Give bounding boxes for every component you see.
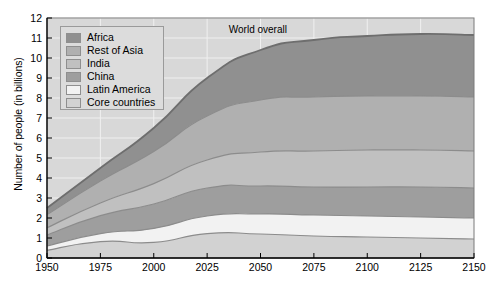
- legend-item: India: [66, 57, 110, 70]
- legend-swatch-africa: [66, 33, 81, 43]
- legend-swatch-china: [66, 72, 81, 82]
- legend: AfricaRest of AsiaIndiaChinaLatin Americ…: [60, 26, 164, 110]
- population-area-chart: Number of people (in billions) 121110987…: [0, 0, 495, 281]
- legend-item: Core countries: [66, 96, 155, 109]
- legend-item: Latin America: [66, 83, 151, 96]
- legend-swatch-india: [66, 59, 81, 69]
- legend-swatch-latin-america: [66, 85, 81, 95]
- legend-item: China: [66, 70, 114, 83]
- legend-label: Rest of Asia: [87, 45, 143, 56]
- legend-item: Africa: [66, 31, 114, 44]
- legend-label: China: [87, 71, 114, 82]
- legend-swatch-core-countries: [66, 98, 81, 108]
- legend-label: India: [87, 58, 110, 69]
- world-overall-annotation: World overall: [229, 24, 287, 35]
- legend-swatch-rest-of-asia: [66, 46, 81, 56]
- legend-item: Rest of Asia: [66, 44, 143, 57]
- legend-label: Africa: [87, 32, 114, 43]
- legend-label: Core countries: [87, 97, 155, 108]
- legend-label: Latin America: [87, 84, 151, 95]
